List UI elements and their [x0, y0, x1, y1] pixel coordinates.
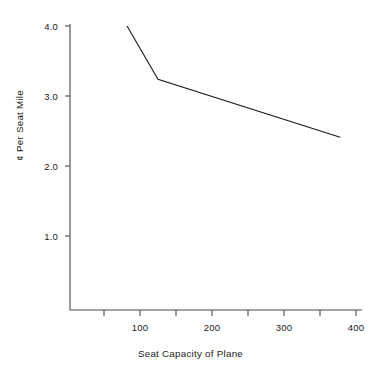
x-tick-label: 400	[348, 322, 364, 333]
x-tick-label: 300	[276, 322, 292, 333]
y-axis-title: ¢ Per Seat Mile	[14, 90, 28, 161]
data-series-line	[127, 26, 340, 137]
chart-plot-area	[0, 0, 381, 369]
y-axis-ticks	[65, 26, 70, 236]
y-tick-label: 4.0	[28, 21, 58, 32]
x-tick-label: 200	[204, 322, 220, 333]
x-tick-label: 100	[132, 322, 148, 333]
chart-container: 4.03.02.01.0 100200300400 ¢ Per Seat Mil…	[0, 0, 381, 369]
y-tick-label: 3.0	[28, 91, 58, 102]
x-axis-title: Seat Capacity of Plane	[0, 348, 381, 359]
y-tick-label: 2.0	[28, 161, 58, 172]
y-tick-label: 1.0	[28, 231, 58, 242]
